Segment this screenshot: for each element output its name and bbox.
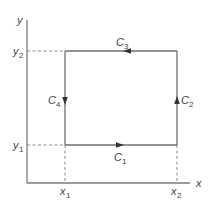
svg-text:2: 2	[19, 51, 24, 60]
diagram-canvas: y x C 1 C 2 C 3 C 4	[0, 0, 215, 205]
c1-arrow-right-icon	[116, 142, 124, 148]
label-c1: C 1	[114, 151, 127, 166]
svg-text:x: x	[59, 185, 66, 197]
svg-text:C: C	[116, 36, 124, 48]
svg-text:2: 2	[177, 191, 182, 200]
tick-label-x2: x 2	[170, 185, 182, 200]
svg-text:2: 2	[189, 100, 194, 109]
svg-text:C: C	[48, 94, 56, 106]
x-axis-label: x	[195, 177, 202, 189]
c4-arrow-down-icon	[62, 97, 68, 105]
svg-text:C: C	[114, 151, 122, 163]
closed-path-diagram: y x C 1 C 2 C 3 C 4	[0, 0, 215, 205]
svg-text:3: 3	[124, 42, 129, 51]
svg-text:1: 1	[66, 191, 71, 200]
svg-text:1: 1	[19, 145, 24, 154]
label-c4: C 4	[48, 94, 61, 109]
c2-arrow-up-icon	[174, 96, 180, 104]
svg-text:C: C	[181, 94, 189, 106]
tick-label-y1: y 1	[12, 139, 24, 154]
tick-label-y2: y 2	[12, 45, 24, 60]
y-axis-label: y	[16, 14, 24, 26]
label-c3: C 3	[116, 36, 129, 51]
svg-text:4: 4	[56, 100, 61, 109]
svg-text:1: 1	[122, 157, 127, 166]
label-c2: C 2	[181, 94, 194, 109]
tick-label-x1: x 1	[59, 185, 71, 200]
svg-text:x: x	[170, 185, 177, 197]
